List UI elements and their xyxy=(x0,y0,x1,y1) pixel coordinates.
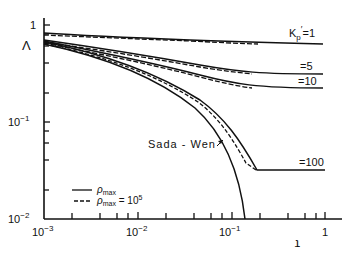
y-tick-labels: 1 10−1 10−2 Λ xyxy=(8,19,36,225)
label-sada-wen: Sada - Wen xyxy=(148,138,216,150)
x-tick-label-0.1: 10−1 xyxy=(219,224,241,238)
curves xyxy=(44,33,325,219)
label-k100: =100 xyxy=(299,156,324,168)
legend: ρmax ρmax = 105 xyxy=(72,184,143,207)
x-tick-label-1: 1 xyxy=(322,226,328,238)
label-k1: Kp′=1 xyxy=(289,24,315,42)
y-tick-label-1: 1 xyxy=(30,19,36,31)
x-tick-label-0.001: 10−3 xyxy=(32,224,54,238)
series-k1-solid xyxy=(44,33,323,44)
chart: 1 10−1 10−2 Λ 10−3 10−2 10−1 1 τ Kp′=1 =… xyxy=(0,0,357,259)
series-sada-wen xyxy=(44,44,245,219)
x-ticks xyxy=(72,212,325,219)
series-k10-dashed xyxy=(44,43,252,88)
label-k10: =10 xyxy=(298,75,317,87)
x-axis-label: τ xyxy=(294,237,300,252)
series-k5-solid xyxy=(44,40,323,74)
series-k100-solid xyxy=(44,42,325,170)
x-tick-label-0.01: 10−2 xyxy=(126,224,148,238)
x-tick-labels: 10−3 10−2 10−1 1 τ xyxy=(32,224,328,252)
y-tick-label-0.01: 10−2 xyxy=(8,211,30,225)
label-k5: =5 xyxy=(300,60,313,72)
series-k1-dashed xyxy=(44,35,258,44)
y-ticks xyxy=(44,25,50,190)
y-tick-label-0.1: 10−1 xyxy=(8,114,30,128)
y-axis-label: Λ xyxy=(22,38,31,53)
